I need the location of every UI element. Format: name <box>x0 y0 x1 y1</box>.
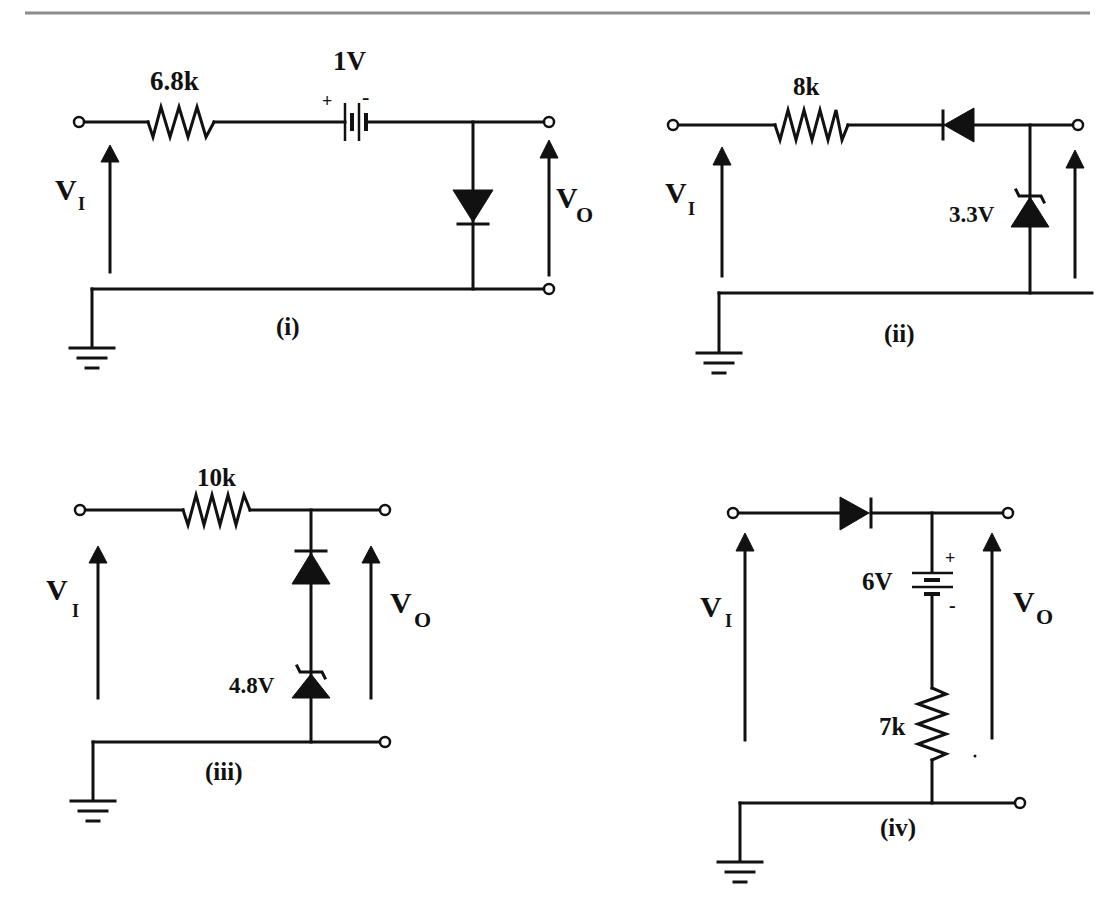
circuit-iii: 10k 4.8V V I V O (iii) <box>46 464 431 821</box>
resistor-label: 6.8k <box>150 66 199 96</box>
diode-icon <box>943 108 974 142</box>
vi-subscript: I <box>725 611 732 631</box>
output-terminal <box>1003 508 1013 518</box>
circuit-i: 6.8k 1V + - V I V O (i) <box>55 46 593 368</box>
vo-subscript: O <box>576 202 593 227</box>
vi-label: V <box>665 176 687 209</box>
vi-label: V <box>700 590 722 623</box>
resistor-label: 10k <box>197 464 236 491</box>
vi-arrow-icon <box>736 533 754 740</box>
vi-label: V <box>46 573 68 606</box>
battery-minus: - <box>949 594 956 616</box>
vi-subscript: I <box>72 601 79 621</box>
diode-icon <box>292 551 330 584</box>
vo-arrow-icon <box>1066 150 1084 277</box>
resistor-icon <box>775 110 848 140</box>
zener-label: 3.3V <box>949 202 995 227</box>
vo-subscript: O <box>1036 604 1053 629</box>
vi-subscript: I <box>688 199 695 219</box>
diode-icon <box>453 190 493 224</box>
zener-diode-icon <box>1011 190 1049 227</box>
stray-dot <box>974 755 977 758</box>
zener-diode-icon <box>292 666 330 698</box>
caption-iii: (iii) <box>205 758 243 786</box>
vo-arrow-icon <box>362 546 380 698</box>
resistor-label: 8k <box>793 73 820 100</box>
resistor-icon <box>918 688 946 760</box>
battery-plus: + <box>945 548 955 568</box>
vo-arrow-icon <box>983 533 1001 738</box>
output-ground-terminal <box>1015 798 1025 808</box>
vi-arrow-icon <box>101 145 119 272</box>
ground-icon <box>718 803 762 882</box>
output-terminal <box>1073 120 1083 130</box>
resistor-label: 7k <box>879 713 906 740</box>
vi-label: V <box>55 173 77 206</box>
vo-subscript: O <box>414 607 431 632</box>
output-terminal <box>544 117 554 127</box>
battery-label: 6V <box>862 568 893 595</box>
vo-label: V <box>1013 585 1035 618</box>
battery-icon <box>912 573 953 594</box>
ground-icon <box>70 289 114 368</box>
battery-minus: - <box>362 84 369 109</box>
caption-ii: (ii) <box>884 320 915 348</box>
output-ground-terminal <box>544 284 554 294</box>
vi-arrow-icon <box>89 546 107 698</box>
caption-iv: (iv) <box>880 814 916 842</box>
caption-i: (i) <box>276 313 300 341</box>
input-terminal <box>74 117 84 127</box>
circuit-figure: 6.8k 1V + - V I V O (i) <box>0 0 1102 916</box>
diode-icon <box>840 497 871 530</box>
output-terminal <box>380 505 390 515</box>
output-ground-terminal <box>380 737 390 747</box>
circuit-ii: 8k 3.3V V I (ii) <box>665 73 1092 373</box>
battery-label: 1V <box>333 46 367 76</box>
resistor-icon <box>183 495 250 525</box>
input-terminal <box>728 508 738 518</box>
input-terminal <box>668 120 678 130</box>
circuit-iv: 6V + - 7k V I V O (iv) <box>700 497 1053 882</box>
ground-icon <box>697 293 741 373</box>
input-terminal <box>75 505 85 515</box>
zener-label: 4.8V <box>229 673 275 698</box>
ground-icon <box>71 742 115 821</box>
vi-arrow-icon <box>713 147 731 276</box>
battery-plus: + <box>322 91 332 111</box>
vo-label: V <box>556 181 578 214</box>
resistor-icon <box>148 107 214 137</box>
vo-label: V <box>390 586 412 619</box>
vi-subscript: I <box>78 194 85 214</box>
